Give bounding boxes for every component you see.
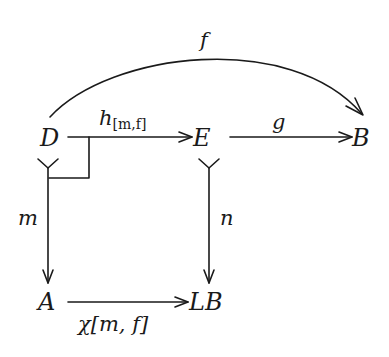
arrow-f-curve xyxy=(50,59,362,117)
node-A: A xyxy=(38,290,55,314)
mono-tail-n xyxy=(199,159,219,168)
node-E: E xyxy=(193,126,211,150)
label-f: f xyxy=(200,30,208,51)
label-h-subscript: [m,f] xyxy=(113,116,147,132)
label-h: h[m,f] xyxy=(99,108,146,129)
node-D: D xyxy=(40,126,59,150)
node-LB: LB xyxy=(189,290,223,314)
label-chi: χ[m, f] xyxy=(78,314,148,335)
label-chi-bracket: [m, f] xyxy=(91,312,148,336)
label-n: n xyxy=(220,208,234,229)
label-h-main: h xyxy=(99,106,113,130)
label-chi-main: χ xyxy=(78,312,91,336)
label-g: g xyxy=(272,112,285,133)
mono-tail-m xyxy=(38,159,58,168)
node-B: B xyxy=(352,126,370,150)
label-m: m xyxy=(18,208,38,229)
commutative-diagram: D E B A LB f h[m,f] g m n χ[m, f] xyxy=(0,0,389,357)
